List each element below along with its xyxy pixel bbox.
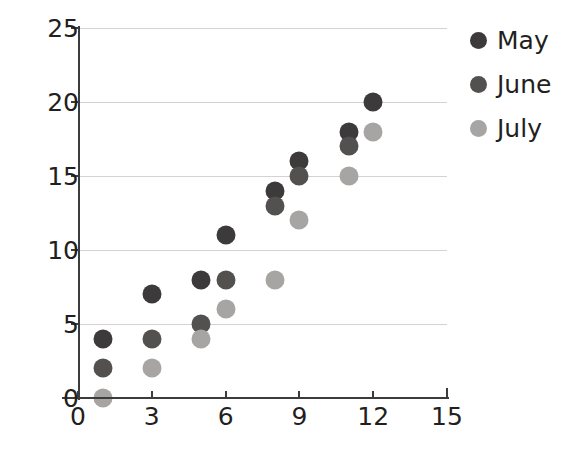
legend-item-june[interactable]: June: [470, 62, 551, 106]
data-point-july-11-15: [339, 167, 358, 186]
data-point-may-1-4: [93, 329, 112, 348]
x-tick-label-15: 15: [431, 404, 463, 429]
y-tick-label-15: 15: [19, 164, 79, 189]
data-point-may-6-11: [216, 226, 235, 245]
x-tick-label-12: 12: [357, 404, 389, 429]
y-tick-label-5: 5: [19, 312, 79, 337]
x-tick-label-9: 9: [291, 404, 307, 429]
legend-label: June: [497, 72, 551, 97]
legend-label: July: [497, 116, 542, 141]
y-axis-line: [78, 26, 80, 400]
legend-item-july[interactable]: July: [470, 106, 551, 150]
data-point-may-12-20: [364, 93, 383, 112]
data-point-june-1-2: [93, 359, 112, 378]
x-axis-line: [62, 397, 449, 399]
x-tick-label-3: 3: [144, 404, 160, 429]
scatter-chart: 03691215 0510152025 MayJuneJuly: [0, 0, 576, 451]
x-tick-3: [151, 391, 153, 399]
gridline-y-15: [78, 176, 447, 177]
legend-item-may[interactable]: May: [470, 18, 551, 62]
legend-marker-icon-june: [470, 76, 487, 93]
legend-marker-icon-july: [470, 120, 487, 137]
data-point-july-8-8: [265, 270, 284, 289]
data-point-july-12-18: [364, 122, 383, 141]
plot-area: [78, 28, 447, 398]
data-point-july-6-6: [216, 300, 235, 319]
y-tick-label-0: 0: [19, 386, 79, 411]
legend-label: May: [497, 28, 549, 53]
x-tick-15: [446, 391, 448, 399]
data-point-june-6-8: [216, 270, 235, 289]
data-point-june-3-4: [142, 329, 161, 348]
gridline-y-25: [78, 28, 447, 29]
legend-marker-icon-may: [470, 32, 487, 49]
data-point-june-8-13: [265, 196, 284, 215]
data-point-june-9-15: [290, 167, 309, 186]
data-point-may-5-8: [192, 270, 211, 289]
x-tick-6: [225, 391, 227, 399]
y-tick-label-10: 10: [19, 238, 79, 263]
gridline-y-10: [78, 250, 447, 251]
y-tick-label-25: 25: [19, 16, 79, 41]
gridline-y-20: [78, 102, 447, 103]
gridline-y-5: [78, 324, 447, 325]
data-point-june-11-17: [339, 137, 358, 156]
x-tick-12: [372, 391, 374, 399]
legend: MayJuneJuly: [470, 18, 551, 150]
data-point-july-5-4: [192, 329, 211, 348]
x-tick-label-6: 6: [218, 404, 234, 429]
data-point-july-9-12: [290, 211, 309, 230]
data-point-may-3-7: [142, 285, 161, 304]
data-point-july-3-2: [142, 359, 161, 378]
x-tick-9: [298, 391, 300, 399]
y-tick-label-20: 20: [19, 90, 79, 115]
